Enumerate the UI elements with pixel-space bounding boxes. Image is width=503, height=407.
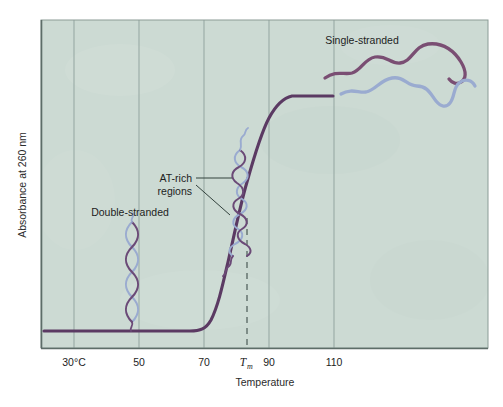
melting-curve-chart: Single-stranded Double-stranded AT-rich … [0, 0, 503, 407]
xtick-label-30: 30°C [62, 356, 86, 368]
single-stranded-label: Single-stranded [325, 34, 399, 46]
xtick-label-90: 90 [263, 356, 275, 368]
double-stranded-label: Double-stranded [91, 206, 169, 218]
at-rich-label-line2: regions [158, 185, 192, 197]
xtick-label-110: 110 [326, 356, 343, 368]
xtick-label-50: 50 [133, 356, 145, 368]
x-axis-title: Temperature [236, 376, 295, 388]
y-axis-title: Absorbance at 260 nm [16, 132, 28, 238]
at-rich-label-line1: AT-rich [160, 172, 193, 184]
tm-tick-subscript: m [247, 362, 253, 371]
dna-melting-curve-figure: Single-stranded Double-stranded AT-rich … [0, 0, 503, 407]
xtick-label-70: 70 [198, 356, 210, 368]
